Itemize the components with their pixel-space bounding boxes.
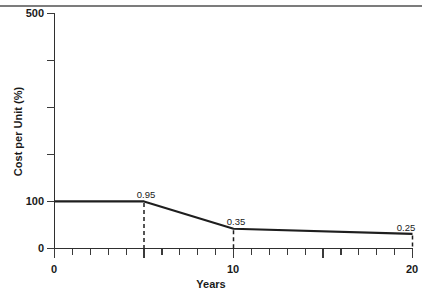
data-label-year-10: 0.35 [227, 217, 246, 227]
y-tick-label-100: 100 [8, 196, 44, 207]
x-axis-title: Years [0, 279, 422, 290]
chart-figure: 500 100 0 0 10 20 0.95 0.35 0.25 Cost pe… [0, 0, 422, 297]
x-axis-ticks [55, 249, 413, 259]
y-axis-title: Cost per Unit (%) [13, 67, 24, 197]
y-tick-label-500: 500 [8, 8, 44, 19]
x-tick-label-0: 0 [51, 264, 57, 275]
chart-plot-area [0, 0, 422, 297]
data-label-year-20: 0.25 [397, 223, 416, 233]
y-axis-ticks [47, 14, 55, 249]
x-tick-label-20: 20 [406, 264, 418, 275]
x-tick-label-10: 10 [227, 264, 239, 275]
data-label-year-5: 0.95 [137, 190, 156, 200]
y-tick-label-0: 0 [8, 243, 44, 254]
